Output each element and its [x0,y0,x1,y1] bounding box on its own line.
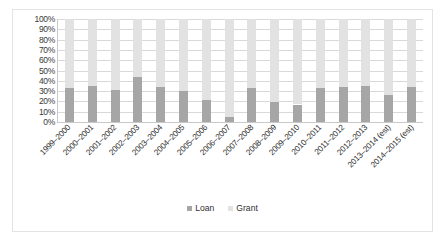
y-axis-tick-label: 20% [19,97,55,106]
bar-segment-grant[interactable] [65,19,74,88]
bar-segment-grant[interactable] [111,19,120,90]
legend-label: Grant [236,204,258,213]
y-axis-tick-label: 30% [19,87,55,96]
legend-label: Loan [195,204,214,213]
bar-segment-grant[interactable] [202,19,211,100]
bar-segment-grant[interactable] [133,19,142,77]
chart-legend: LoanGrant [13,204,432,213]
bar-segment-grant[interactable] [270,19,279,102]
bar-column[interactable] [293,19,302,122]
bar-column[interactable] [270,19,279,122]
bar-segment-loan[interactable] [293,105,302,123]
y-axis-tick-label: 10% [19,107,55,116]
legend-item[interactable]: Loan [187,204,214,213]
bar-segment-grant[interactable] [88,19,97,86]
bar-segment-loan[interactable] [247,88,256,122]
bar-segment-loan[interactable] [179,91,188,122]
y-axis-tick-label: 50% [19,66,55,75]
plot-area [57,19,423,123]
bar-column[interactable] [247,19,256,122]
bar-segment-loan[interactable] [316,88,325,122]
y-axis-tick-label: 100% [19,15,55,24]
bar-segment-grant[interactable] [407,19,416,87]
bar-column[interactable] [111,19,120,122]
y-axis-tick-label: 80% [19,35,55,44]
bar-segment-loan[interactable] [270,102,279,122]
chart-container: 0%10%20%30%40%50%60%70%80%90%100% 1999–2… [12,9,433,232]
legend-swatch-icon [228,206,233,211]
bar-segment-grant[interactable] [247,19,256,88]
y-axis-tick-label: 70% [19,46,55,55]
bar-segment-loan[interactable] [156,87,165,122]
legend-item[interactable]: Grant [228,204,258,213]
bar-segment-grant[interactable] [361,19,370,86]
bar-column[interactable] [361,19,370,122]
bar-column[interactable] [202,19,211,122]
y-axis-tick-label: 0% [19,118,55,127]
bar-column[interactable] [316,19,325,122]
bar-segment-loan[interactable] [88,86,97,122]
bar-segment-grant[interactable] [225,19,234,117]
legend-swatch-icon [187,206,192,211]
bar-segment-loan[interactable] [407,87,416,122]
x-axis: 1999–20002000–20012001–20022002–20032003… [57,123,422,201]
plot-wrapper: 0%10%20%30%40%50%60%70%80%90%100% 1999–2… [13,10,432,231]
bar-segment-loan[interactable] [225,117,234,122]
bar-column[interactable] [133,19,142,122]
bar-column[interactable] [225,19,234,122]
bar-segment-grant[interactable] [339,19,348,87]
bar-column[interactable] [88,19,97,122]
bar-segment-grant[interactable] [293,19,302,104]
bar-segment-grant[interactable] [156,19,165,87]
bar-segment-loan[interactable] [202,100,211,122]
y-axis: 0%10%20%30%40%50%60%70%80%90%100% [19,19,55,122]
bar-segment-loan[interactable] [111,90,120,122]
bar-column[interactable] [339,19,348,122]
bar-segment-grant[interactable] [179,19,188,91]
bar-segment-loan[interactable] [361,86,370,122]
bar-column[interactable] [65,19,74,122]
y-axis-tick-label: 40% [19,77,55,86]
bar-column[interactable] [384,19,393,122]
bar-segment-grant[interactable] [384,19,393,95]
bar-segment-loan[interactable] [65,88,74,122]
bar-column[interactable] [156,19,165,122]
bar-column[interactable] [407,19,416,122]
y-axis-tick-label: 90% [19,25,55,34]
bar-column[interactable] [179,19,188,122]
bar-segment-loan[interactable] [339,87,348,122]
bar-segment-grant[interactable] [316,19,325,88]
bar-segment-loan[interactable] [384,95,393,122]
bar-segment-loan[interactable] [133,77,142,122]
y-axis-tick-label: 60% [19,56,55,65]
bar-series-layer [58,19,423,122]
